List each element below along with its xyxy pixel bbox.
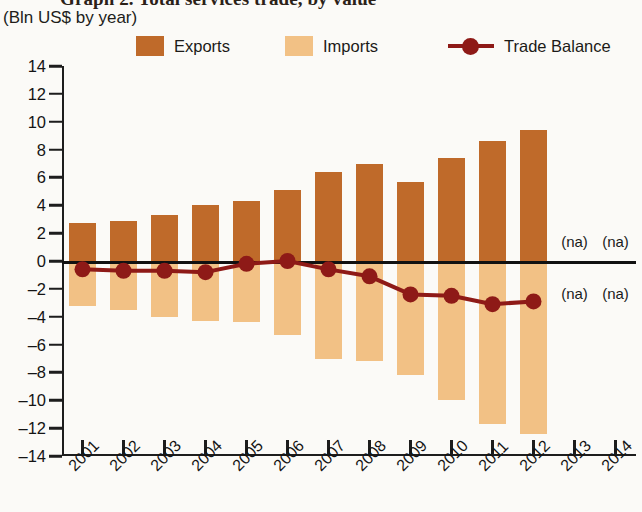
y-tick-mark	[49, 204, 62, 207]
y-tick-label: 0	[0, 253, 46, 270]
bar-exports-2003	[151, 215, 178, 261]
y-tick-mark	[49, 315, 62, 318]
zero-baseline	[62, 261, 636, 264]
bar-exports-2010	[438, 158, 465, 261]
y-tick-label: 2	[0, 225, 46, 242]
bar-exports-2005	[233, 201, 260, 261]
na-annotation-2014-below-zero: (na)	[602, 285, 629, 302]
bar-imports-2008	[356, 261, 383, 361]
y-tick-mark	[49, 288, 62, 291]
y-tick-mark	[49, 120, 62, 123]
bar-imports-2011	[479, 261, 506, 424]
x-tick-label-2003: 2003	[147, 437, 185, 475]
na-annotation-2013-above-zero: (na)	[561, 233, 588, 250]
bar-imports-2006	[274, 261, 301, 335]
bar-exports-2001	[69, 223, 96, 261]
y-tick-mark	[49, 260, 62, 263]
x-tick-label-2002: 2002	[106, 437, 144, 475]
bar-exports-2011	[479, 141, 506, 261]
y-tick-label: –2	[0, 281, 46, 298]
y-tick-label: 12	[0, 86, 46, 103]
bar-imports-2010	[438, 261, 465, 400]
legend-label-trade-balance: Trade Balance	[504, 37, 611, 56]
bar-imports-2005	[233, 261, 260, 322]
plot-area: 14121086420–2–4–6–8–10–12–14 (na)(na)(na…	[0, 58, 642, 458]
x-tick-label-2010: 2010	[434, 437, 472, 475]
bar-exports-2007	[315, 172, 342, 261]
legend-marker-trade-balance	[448, 36, 494, 56]
x-tick-label-2001: 2001	[65, 437, 103, 475]
legend-label-imports: Imports	[323, 37, 378, 56]
y-tick-mark	[49, 427, 62, 430]
y-tick-mark	[49, 176, 62, 179]
y-tick-label: 4	[0, 197, 46, 214]
bar-exports-2002	[110, 221, 137, 261]
y-tick-label: –10	[0, 392, 46, 409]
bar-imports-2009	[397, 261, 424, 375]
legend-swatch-imports	[285, 36, 313, 56]
x-tick-label-2005: 2005	[229, 437, 267, 475]
y-tick-label: 6	[0, 169, 46, 186]
bar-exports-2004	[192, 205, 219, 261]
legend-item-imports[interactable]: Imports	[285, 34, 378, 58]
y-tick-mark	[49, 65, 62, 68]
x-tick-label-2012: 2012	[516, 437, 554, 475]
bar-imports-2003	[151, 261, 178, 317]
y-tick-mark	[49, 148, 62, 151]
x-axis: 2001200220032004200520062007200820092010…	[0, 440, 642, 512]
y-tick-label: 10	[0, 113, 46, 130]
x-tick-label-2008: 2008	[352, 437, 390, 475]
y-tick-label: –12	[0, 420, 46, 437]
x-tick-label-2004: 2004	[188, 437, 226, 475]
x-tick-label-2013: 2013	[557, 437, 595, 475]
y-tick-mark	[49, 371, 62, 374]
y-tick-label: –6	[0, 336, 46, 353]
bar-imports-2007	[315, 261, 342, 359]
bar-imports-2002	[110, 261, 137, 310]
x-tick-label-2009: 2009	[393, 437, 431, 475]
chart-legend: Exports Imports Trade Balance	[0, 34, 642, 58]
na-annotation-2014-above-zero: (na)	[602, 233, 629, 250]
legend-swatch-exports	[136, 36, 164, 56]
legend-label-exports: Exports	[174, 37, 230, 56]
bar-exports-2009	[397, 182, 424, 261]
bar-exports-2006	[274, 190, 301, 261]
x-tick-label-2014: 2014	[598, 437, 636, 475]
y-tick-label: 14	[0, 58, 46, 75]
chart-subtitle: (Bln US$ by year)	[3, 8, 137, 28]
bar-imports-2012	[520, 261, 547, 434]
y-tick-mark	[49, 93, 62, 96]
legend-circle-marker-icon	[462, 38, 479, 55]
x-tick-label-2011: 2011	[475, 438, 512, 475]
y-tick-mark	[49, 399, 62, 402]
bar-exports-2008	[356, 164, 383, 262]
y-tick-label: –8	[0, 364, 46, 381]
y-tick-mark	[49, 343, 62, 346]
bar-imports-2001	[69, 261, 96, 306]
y-tick-label: –4	[0, 308, 46, 325]
na-annotation-2013-below-zero: (na)	[561, 285, 588, 302]
x-tick-label-2007: 2007	[311, 437, 349, 475]
bar-exports-2012	[520, 130, 547, 261]
legend-item-trade-balance[interactable]: Trade Balance	[448, 34, 611, 58]
legend-item-exports[interactable]: Exports	[136, 34, 230, 58]
bar-imports-2004	[192, 261, 219, 321]
x-tick-label-2006: 2006	[270, 437, 308, 475]
y-tick-label: 8	[0, 141, 46, 158]
y-tick-mark	[49, 232, 62, 235]
